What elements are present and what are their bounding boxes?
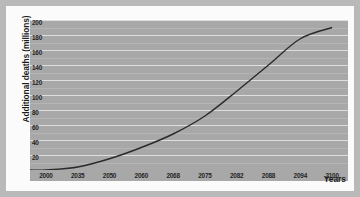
x-axis-tick-label: 2082 <box>230 172 243 179</box>
x-axis-tick-band: 2000203520502060206820752082208820942100 <box>30 170 348 181</box>
line-series-path <box>30 20 348 170</box>
series-line <box>30 28 332 171</box>
x-axis-tick-label: 2000 <box>39 172 52 179</box>
plot-area: 020406080100120140160180200 <box>30 20 348 170</box>
x-axis-tick-label: 2068 <box>166 172 179 179</box>
x-axis-tick-label: 2060 <box>135 172 148 179</box>
x-axis-tick-label: 2075 <box>198 172 211 179</box>
chart-figure: Additional deaths (millions) 02040608010… <box>0 0 360 197</box>
x-axis-tick-label: 2088 <box>262 172 275 179</box>
chart-card: Additional deaths (millions) 02040608010… <box>6 6 354 191</box>
x-axis-tick-label: 2035 <box>71 172 84 179</box>
x-axis-title: Years <box>324 174 346 184</box>
x-axis-tick-label: 2094 <box>294 172 307 179</box>
x-axis-tick-label: 2050 <box>103 172 116 179</box>
